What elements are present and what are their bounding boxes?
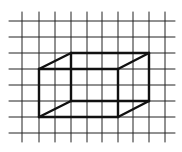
box-diagram — [0, 0, 182, 152]
